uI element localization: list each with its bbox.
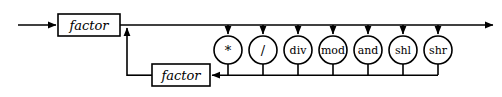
factor-second-label: factor [160, 68, 201, 83]
node-factor-first[interactable]: factor [58, 14, 120, 36]
branch-op-shl[interactable]: shl [389, 25, 417, 75]
branch-op-div[interactable]: / [249, 25, 277, 75]
railroad-diagram: factor factor * / div [0, 0, 502, 97]
branch-op-and[interactable]: and [354, 25, 382, 75]
op-div-label: / [261, 43, 266, 58]
factor-first-label: factor [68, 18, 109, 33]
op-idiv-label: div [290, 44, 308, 57]
branch-op-mod[interactable]: mod [319, 25, 347, 75]
branch-op-shr[interactable]: shr [424, 25, 452, 75]
railroad-diagram-canvas: factor factor * / div [0, 0, 502, 97]
op-and-label: and [358, 44, 379, 57]
op-mul-label: * [225, 43, 232, 58]
branch-op-mul[interactable]: * [214, 25, 242, 75]
op-shr-label: shr [429, 44, 448, 57]
branch-op-idiv[interactable]: div [284, 25, 312, 75]
op-shl-label: shl [395, 44, 412, 57]
op-mod-label: mod [321, 44, 345, 57]
node-factor-second[interactable]: factor [152, 64, 210, 86]
